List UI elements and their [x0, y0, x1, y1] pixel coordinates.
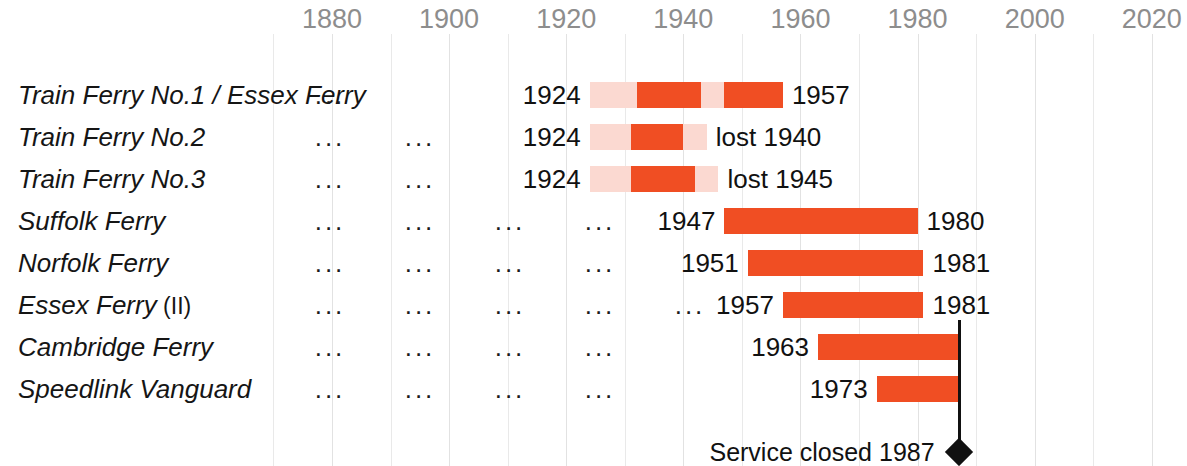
axis-tick-1880: 1880	[302, 4, 362, 35]
row-start-year-label: 1957	[716, 290, 783, 321]
row-ellipsis: ...	[495, 248, 526, 279]
row-ellipsis: ...	[315, 206, 346, 237]
service-bar-segment	[590, 166, 631, 192]
row-label-train-ferry-no-1-essex-ferry: Train Ferry No.1 / Essex Ferry	[18, 80, 366, 111]
row-ellipsis: ...	[495, 374, 526, 405]
ferry-service-timeline-chart: 18801900192019401960198020002020 Train F…	[0, 0, 1187, 466]
service-bar-segment	[695, 166, 718, 192]
row-label-essex-ferry: Essex Ferry (II)	[18, 290, 191, 321]
axis-tick-1900: 1900	[419, 4, 479, 35]
axis-tick-2020: 2020	[1122, 4, 1182, 35]
row-ellipsis: ...	[405, 248, 436, 279]
service-bar-segment	[783, 292, 924, 318]
service-bar-segment	[631, 124, 684, 150]
service-bar-segment	[637, 82, 701, 108]
row-end-year-label: 1957	[783, 80, 850, 111]
row-label-speedlink-vanguard: Speedlink Vanguard	[18, 374, 251, 405]
service-bar-segment	[724, 208, 917, 234]
timeline-row: Speedlink Vanguard............1973	[0, 368, 1187, 410]
row-label-cambridge-ferry: Cambridge Ferry	[18, 332, 213, 363]
timeline-row: Train Ferry No.2......1924lost 1940	[0, 116, 1187, 158]
row-ellipsis: ...	[675, 290, 706, 321]
row-start-year-label: 1951	[681, 248, 748, 279]
service-bar-segment	[683, 124, 706, 150]
row-ellipsis: ...	[585, 290, 616, 321]
row-label-train-ferry-no-2: Train Ferry No.2	[18, 122, 205, 153]
service-closure-caption: Service closed 1987	[709, 438, 934, 466]
row-end-year-label: lost 1945	[719, 164, 834, 195]
row-end-year-label: lost 1940	[707, 122, 822, 153]
row-ellipsis: ...	[585, 332, 616, 363]
row-ellipsis: ...	[315, 164, 346, 195]
row-label-train-ferry-no-3: Train Ferry No.3	[18, 164, 205, 195]
timeline-row: Train Ferry No.3......1924lost 1945	[0, 158, 1187, 200]
timeline-row: Train Ferry No.1 / Essex Ferry...1924195…	[0, 74, 1187, 116]
service-bar-segment	[748, 250, 924, 276]
row-start-year-label: 1947	[658, 206, 725, 237]
axis-tick-1940: 1940	[653, 4, 713, 35]
row-ellipsis: ...	[495, 332, 526, 363]
timeline-row: Essex Ferry (II)...............19571981	[0, 284, 1187, 326]
axis-tick-1920: 1920	[536, 4, 596, 35]
row-start-year-label: 1973	[810, 374, 877, 405]
row-label-suffolk-ferry: Suffolk Ferry	[18, 206, 165, 237]
service-bar-segment	[818, 334, 959, 360]
timeline-row: Suffolk Ferry............19471980	[0, 200, 1187, 242]
row-label-norfolk-ferry: Norfolk Ferry	[18, 248, 168, 279]
row-start-year-label: 1924	[523, 122, 590, 153]
service-closure-diamond-marker	[944, 438, 972, 466]
row-ellipsis: ...	[585, 206, 616, 237]
row-ellipsis: ...	[315, 80, 346, 111]
row-ellipsis: ...	[315, 374, 346, 405]
row-ellipsis: ...	[405, 374, 436, 405]
row-end-year-label: 1981	[923, 290, 990, 321]
row-ellipsis: ...	[315, 122, 346, 153]
row-ellipsis: ...	[315, 332, 346, 363]
row-ellipsis: ...	[405, 164, 436, 195]
row-start-year-label: 1963	[751, 332, 818, 363]
row-ellipsis: ...	[405, 206, 436, 237]
row-ellipsis: ...	[405, 290, 436, 321]
timeline-row: Norfolk Ferry............19511981	[0, 242, 1187, 284]
row-end-year-label: 1980	[918, 206, 985, 237]
row-ellipsis: ...	[315, 290, 346, 321]
service-bar-segment	[877, 376, 959, 402]
service-bar-segment	[724, 82, 783, 108]
timeline-row: Cambridge Ferry............1963	[0, 326, 1187, 368]
service-bar-segment	[631, 166, 695, 192]
row-ellipsis: ...	[585, 374, 616, 405]
row-ellipsis: ...	[405, 122, 436, 153]
row-start-year-label: 1924	[523, 80, 590, 111]
row-ellipsis: ...	[585, 248, 616, 279]
row-ellipsis: ...	[495, 290, 526, 321]
service-bar-segment	[590, 82, 637, 108]
row-label-suffix: (II)	[157, 293, 192, 319]
row-ellipsis: ...	[495, 206, 526, 237]
service-closure-line	[958, 320, 961, 450]
axis-tick-1980: 1980	[888, 4, 948, 35]
row-start-year-label: 1924	[523, 164, 590, 195]
row-ellipsis: ...	[315, 248, 346, 279]
row-end-year-label: 1981	[923, 248, 990, 279]
service-bar-segment	[701, 82, 724, 108]
service-bar-segment	[590, 124, 631, 150]
row-ellipsis: ...	[405, 332, 436, 363]
axis-tick-1960: 1960	[770, 4, 830, 35]
axis-tick-2000: 2000	[1005, 4, 1065, 35]
